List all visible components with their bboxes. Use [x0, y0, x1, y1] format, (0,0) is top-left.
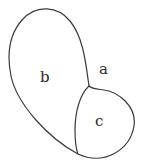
figure-background — [0, 0, 147, 163]
region-label-a: a — [99, 62, 108, 77]
region-label-b: b — [40, 70, 50, 85]
region-label-c: c — [95, 114, 103, 129]
figure-container: a b c — [0, 0, 147, 163]
figure-canvas — [0, 0, 147, 163]
